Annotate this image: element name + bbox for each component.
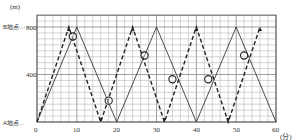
distance-time-chart: (m) B地点… 800 400 A地点… 0 10 20 30 40 50 6… bbox=[0, 0, 296, 140]
meeting-point-marker bbox=[205, 76, 212, 83]
x-tick-30: 30 bbox=[153, 126, 161, 134]
meeting-point-marker bbox=[241, 52, 248, 59]
meeting-point-marker bbox=[105, 97, 112, 104]
x-axis-unit: (分) bbox=[280, 132, 292, 140]
x-tick-10: 10 bbox=[73, 126, 81, 134]
meeting-point-marker bbox=[69, 33, 76, 40]
x-tick-20: 20 bbox=[113, 126, 121, 134]
x-tick-0: 0 bbox=[34, 126, 38, 134]
y-tick-800: 800 bbox=[26, 24, 37, 32]
meeting-point-marker bbox=[141, 52, 148, 59]
x-tick-60: 60 bbox=[272, 126, 280, 134]
meeting-point-marker bbox=[169, 76, 176, 83]
b-point-label: B地点… bbox=[3, 23, 25, 31]
x-tick-50: 50 bbox=[233, 126, 241, 134]
grid bbox=[19, 15, 276, 122]
a-point-label: A地点… bbox=[3, 119, 25, 127]
y-tick-400: 400 bbox=[26, 71, 37, 79]
y-axis-unit: (m) bbox=[10, 3, 21, 11]
x-tick-40: 40 bbox=[193, 126, 201, 134]
